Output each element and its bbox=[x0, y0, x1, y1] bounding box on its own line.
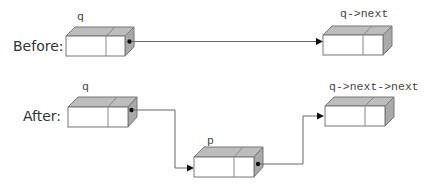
node-front-face bbox=[323, 35, 383, 55]
node-front-face bbox=[194, 157, 254, 177]
node-top-face bbox=[323, 26, 392, 35]
link-line bbox=[133, 110, 189, 168]
node-before-q-next: q->next bbox=[323, 7, 392, 55]
arrowhead-icon bbox=[187, 165, 194, 172]
node-top-face bbox=[66, 27, 134, 36]
after-row-label: After: bbox=[23, 108, 61, 124]
node-front-face bbox=[325, 106, 385, 126]
node-before-q: q bbox=[66, 10, 134, 56]
link-before-q-to-next bbox=[131, 38, 323, 45]
node-label-q: q bbox=[77, 10, 84, 23]
before-row-label: Before: bbox=[13, 38, 64, 54]
node-after-q-next-next: q->next->next bbox=[325, 80, 419, 126]
link-after-q-to-p bbox=[133, 110, 194, 172]
arrowhead-icon bbox=[317, 113, 324, 120]
node-after-p: p bbox=[194, 134, 263, 177]
arrowhead-icon bbox=[316, 38, 323, 45]
node-front-face bbox=[68, 107, 128, 127]
link-line bbox=[260, 116, 319, 164]
node-label-p: p bbox=[207, 134, 214, 147]
link-after-p-to-next-next bbox=[260, 113, 324, 165]
node-top-face bbox=[325, 97, 394, 106]
node-top-face bbox=[68, 97, 137, 107]
node-top-face bbox=[194, 147, 263, 157]
node-label-q-next-next: q->next->next bbox=[329, 80, 419, 93]
node-label-q-next: q->next bbox=[340, 7, 388, 20]
node-after-q: q bbox=[68, 80, 137, 127]
next-pointer-dot bbox=[256, 162, 260, 166]
node-front-face bbox=[66, 36, 125, 56]
linked-list-diagram: Before: After: q q->next q bbox=[0, 0, 431, 188]
node-label-q: q bbox=[82, 80, 89, 93]
